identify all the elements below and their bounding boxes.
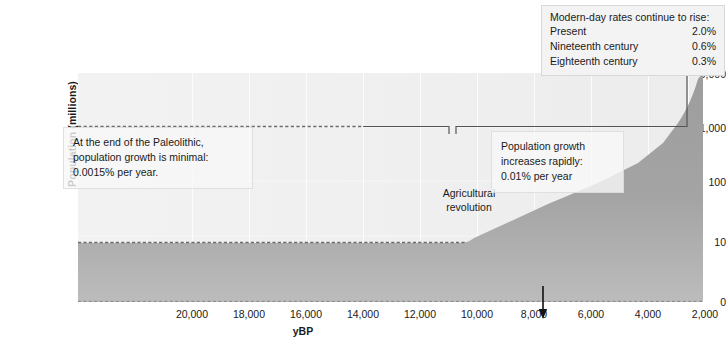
rate-row-eighteenth-century: Eighteenth century 0.3%	[550, 54, 716, 69]
rate-row-nineteenth-century: Nineteenth century 0.6%	[550, 39, 716, 54]
rate-label-present: Present	[550, 24, 586, 39]
rate-label-eighteenth-century: Eighteenth century	[550, 54, 638, 69]
rate-value-present: 2.0%	[692, 24, 716, 39]
x-axis-title: yBP	[0, 325, 726, 337]
x-tick-present: Present	[710, 308, 726, 320]
rate-value-eighteenth-century: 0.3%	[692, 54, 716, 69]
x-axis-title-text: yBP	[293, 325, 313, 337]
rate-row-present: Present 2.0%	[550, 24, 716, 39]
callout-paleolithic-growth: At the end of the Paleolithic, populatio…	[63, 127, 253, 189]
rate-label-nineteenth-century: Nineteenth century	[550, 39, 638, 54]
population-growth-chart: Population (millions) 10,000 1,000 100 1…	[0, 0, 726, 352]
callout-rapid-growth: Population growth increases rapidly: 0.0…	[491, 131, 624, 193]
modern-rates-box: Modern-day rates continue to rise: Prese…	[541, 5, 725, 76]
rate-value-nineteenth-century: 0.6%	[692, 39, 716, 54]
modern-rates-title: Modern-day rates continue to rise:	[550, 11, 716, 23]
